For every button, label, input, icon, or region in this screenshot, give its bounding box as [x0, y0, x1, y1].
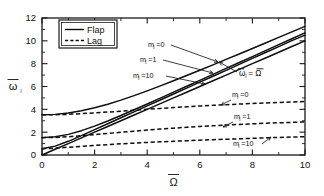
y-tick-label: 12 [25, 12, 36, 23]
annotation-suffix: =10 [141, 71, 153, 80]
annotation-subscript: l [153, 44, 154, 50]
y-tick-label: 10 [25, 35, 36, 46]
annotation-suffix: =10 [241, 139, 253, 148]
x-axis-label-text: Ω [169, 176, 177, 188]
x-tick-label: 6 [197, 159, 202, 170]
curve-annotations: ml=0ml=1ml=10ml=0ml=1ml=10ωl = Ω [133, 40, 271, 149]
annotation-subscript: l [145, 59, 146, 65]
x-tick-label: 4 [145, 159, 150, 170]
annotation-flap-ml-0: ml=0 [148, 40, 218, 62]
annotation-lag-ml-10: ml=10 [233, 137, 271, 149]
x-axis-label: Ω [168, 175, 179, 189]
annotation-leader-line [163, 60, 213, 73]
annotation-subscript: l [238, 143, 239, 149]
y-tick-label: 8 [31, 58, 36, 69]
annotation-subscript: l [237, 94, 238, 100]
legend[interactable]: Flap Lag [59, 20, 117, 48]
x-tick-label: 0 [39, 159, 44, 170]
y-tick-label: 0 [31, 149, 36, 160]
figure-container: 0246810 024681012 Ω ω l ml=0ml=1ml=10ml=… [0, 0, 324, 196]
y-axis-label-text: ω [9, 80, 18, 92]
y-axis-tick-labels: 024681012 [25, 12, 36, 160]
y-tick-label: 6 [31, 81, 36, 92]
legend-label-flap: Flap [87, 25, 105, 35]
annotation-subscript: l [245, 73, 246, 79]
annotation-suffix: =0 [240, 90, 248, 99]
y-axis-label: ω l [8, 80, 22, 95]
annotation-subscript: l [239, 116, 240, 122]
annotation-lag-ml-0: ml=0 [221, 90, 248, 105]
x-tick-label: 8 [250, 159, 255, 170]
annotation-leader-line [171, 45, 218, 62]
annotation-arrow-barb-b [209, 73, 213, 74]
y-tick-label: 4 [31, 104, 36, 115]
curve-asymptote-omega-omega [42, 41, 305, 155]
y-tick-label: 2 [31, 127, 36, 138]
x-tick-label: 10 [300, 159, 311, 170]
x-axis-tick-labels: 0246810 [39, 159, 310, 170]
annotation-leader-line [223, 122, 233, 127]
annotation-suffix: =1 [242, 112, 250, 121]
curve-lag-m-l-0 [42, 102, 305, 115]
annotation-subscript: l [138, 75, 139, 81]
annotation-suffix: =1 [148, 55, 156, 64]
annotation-suffix: =0 [156, 40, 164, 49]
annotation-suffix: = Ω [248, 69, 261, 78]
legend-label-lag: Lag [87, 36, 102, 46]
x-tick-label: 2 [92, 159, 97, 170]
y-axis-label-subscript: l [21, 88, 22, 94]
chart-canvas: 0246810 024681012 Ω ω l ml=0ml=1ml=10ml=… [0, 0, 324, 196]
